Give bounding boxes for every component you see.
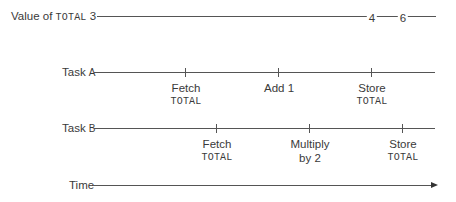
event-line1: Store bbox=[358, 82, 386, 94]
task-a-label-word: Task bbox=[62, 66, 89, 78]
task-a-event-fetch: Fetch TOTAL bbox=[170, 81, 201, 109]
task-a-event-add: Add 1 bbox=[264, 81, 294, 95]
task-a-tick-store bbox=[371, 68, 372, 77]
event-line2: by 2 bbox=[291, 151, 330, 165]
total-value-1: 4 bbox=[367, 12, 377, 24]
arrow-right-icon bbox=[431, 182, 438, 188]
task-b-tick-fetch bbox=[216, 124, 217, 133]
total-value-2: 6 bbox=[398, 12, 408, 24]
event-line1: Fetch bbox=[172, 82, 201, 94]
total-label-prefix: Value of bbox=[11, 10, 56, 22]
event-line1: Store bbox=[389, 138, 417, 150]
task-b-event-store: Store TOTAL bbox=[387, 137, 418, 165]
event-line2: TOTAL bbox=[356, 95, 387, 109]
total-label-var: TOTAL bbox=[56, 12, 87, 23]
event-line1: Multiply bbox=[291, 137, 330, 151]
event-line1: Fetch bbox=[203, 138, 232, 150]
time-axis bbox=[93, 185, 432, 186]
task-b-event-fetch: Fetch TOTAL bbox=[201, 137, 232, 165]
total-row-label: Value of TOTAL 3 bbox=[11, 9, 96, 25]
task-b-tick-store bbox=[402, 124, 403, 133]
task-b-tick-multiply bbox=[309, 124, 310, 133]
total-timeline bbox=[97, 16, 436, 17]
time-label: Time bbox=[69, 178, 94, 192]
event-line2: TOTAL bbox=[170, 95, 201, 109]
task-a-timeline bbox=[94, 72, 435, 73]
event-line1: Add 1 bbox=[264, 82, 294, 94]
task-b-timeline bbox=[94, 128, 435, 129]
task-b-label-word: Task bbox=[62, 122, 89, 134]
task-a-tick-add bbox=[278, 68, 279, 77]
task-b-event-multiply: Multiply by 2 bbox=[291, 137, 330, 165]
task-b-label: Task B bbox=[62, 121, 96, 136]
total-label-initial-value: 3 bbox=[90, 10, 96, 22]
task-a-tick-fetch bbox=[185, 68, 186, 77]
task-a-event-store: Store TOTAL bbox=[356, 81, 387, 109]
event-line2: TOTAL bbox=[201, 151, 232, 165]
task-a-label: Task A bbox=[62, 65, 96, 80]
event-line2: TOTAL bbox=[387, 151, 418, 165]
